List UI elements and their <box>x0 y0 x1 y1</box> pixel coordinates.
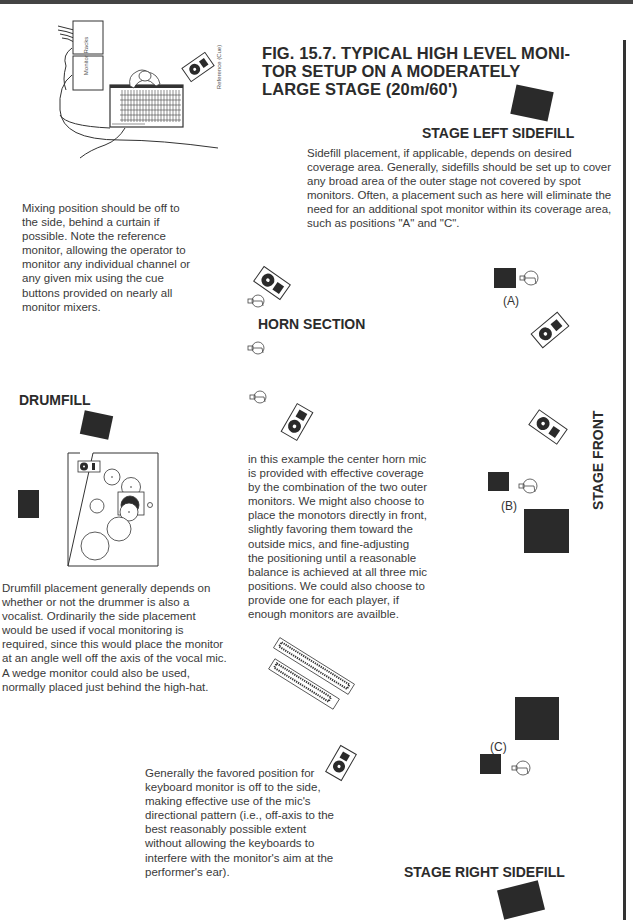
horn-mic-2 <box>248 342 264 354</box>
sidefill-caption: Sidefill placement, if applicable, depen… <box>307 146 617 231</box>
mixing-position-caption: Mixing position should be off to the sid… <box>22 201 197 314</box>
mixing-position-illustration: Monitor Racks Reference (Cue) <box>0 0 260 170</box>
figure-title: FIG. 15.7. TYPICAL HIGH LEVEL MONI- TOR … <box>262 44 602 98</box>
horn-center-monitor <box>275 400 325 450</box>
position-b-monitor <box>520 405 580 455</box>
svg-text:Reference (Cue): Reference (Cue) <box>216 45 222 89</box>
position-b-mic <box>517 476 541 498</box>
position-c-wedge <box>480 754 501 774</box>
drumfill-rear-speaker <box>80 410 113 440</box>
drumfill-label: DRUMFILL <box>19 392 91 408</box>
horn-section-caption: in this example the center horn mic is p… <box>248 452 428 621</box>
keyboard-caption: Generally the favored position for keybo… <box>145 766 335 879</box>
position-c-speaker-stack <box>515 697 559 740</box>
stage-right-sidefill-label: STAGE RIGHT SIDEFILL <box>404 864 565 880</box>
svg-text:Monitor Racks: Monitor Racks <box>83 37 89 75</box>
position-c-label: (C) <box>490 740 507 754</box>
stage-front-edge-line <box>623 40 626 920</box>
keyboards-illustration <box>262 640 372 720</box>
position-a-mic <box>518 268 542 290</box>
drum-kit-riser <box>60 450 165 575</box>
drumfill-caption: Drumfill placement generally depends on … <box>2 581 227 694</box>
stage-left-sidefill-speaker <box>510 84 553 121</box>
position-b-wedge <box>488 472 509 491</box>
stage-left-sidefill-label: STAGE LEFT SIDEFILL <box>422 125 574 141</box>
horn-mic-3 <box>250 391 266 403</box>
title-line-1: FIG. 15.7. TYPICAL HIGH LEVEL MONI- <box>262 44 602 62</box>
stage-front-label: STAGE FRONT <box>590 411 606 510</box>
position-b-label: (B) <box>501 499 517 513</box>
title-line-2: TOR SETUP ON A MODERATELY <box>262 62 602 80</box>
horn-mic-1 <box>248 295 264 307</box>
position-c-mic <box>510 758 534 780</box>
position-a-wedge <box>494 268 516 288</box>
position-a-label: (A) <box>503 294 519 308</box>
drumfill-side-speaker <box>18 490 39 518</box>
position-a-monitor <box>520 305 580 355</box>
horn-section-label: HORN SECTION <box>258 316 365 332</box>
position-b-speaker-stack <box>524 509 569 553</box>
stage-right-sidefill-speaker <box>497 880 545 919</box>
